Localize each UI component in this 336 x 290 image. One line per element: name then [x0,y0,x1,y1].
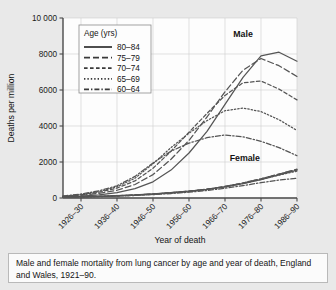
figure-container: 0200040006000800010 000 1926–301936–4019… [0,0,336,290]
chart-plot-region: 0200040006000800010 000 1926–301936–4019… [0,0,336,250]
line-chart: 0200040006000800010 000 1926–301936–4019… [0,0,336,250]
y-tick-label: 6000 [39,86,58,95]
legend-label: 80–84 [117,43,140,52]
legend-label: 60–64 [117,85,140,94]
chart-legend: Age (yrs)80–8475–7970–7465–6960–64 [79,25,151,94]
y-tick-label: 8000 [39,50,58,59]
figure-caption-text: Male and female mortality from lung canc… [16,258,320,281]
annotation-female: Female [230,153,260,163]
y-tick-label: 10 000 [32,14,57,23]
legend-label: 75–79 [117,54,140,63]
legend-label: 65–69 [117,75,140,84]
annotation-male: Male [233,29,253,39]
figure-caption-box: Male and female mortality from lung canc… [8,253,328,283]
y-tick-label: 0 [52,194,57,203]
y-axis-title: Deaths per million [6,73,16,142]
y-tick-label: 4000 [39,122,58,131]
x-axis-title: Year of death [155,235,206,245]
legend-label: 70–74 [117,64,140,73]
y-tick-label: 2000 [39,158,58,167]
legend-title: Age (yrs) [84,29,117,38]
